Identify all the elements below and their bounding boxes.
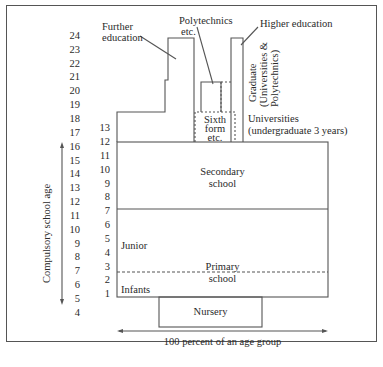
age-label: 8 <box>60 251 80 262</box>
age-label: 21 <box>60 71 80 82</box>
polytechnics-box <box>201 82 221 112</box>
grade-label: 5 <box>94 233 110 244</box>
infants-label: Infants <box>121 284 150 295</box>
secondary-label-2: school <box>117 178 328 189</box>
age-label: 10 <box>60 224 80 235</box>
width-axis-label: 100 percent of an age group <box>117 336 328 347</box>
grade-label: 7 <box>94 205 110 216</box>
grade-label: 3 <box>94 261 110 272</box>
primary-label-2: school <box>117 273 328 284</box>
grade-label: 4 <box>94 247 110 258</box>
grade-label: 10 <box>94 164 110 175</box>
primary-label-1: Primary <box>117 261 328 272</box>
secondary-label-1: Secondary <box>117 166 328 177</box>
junior-label: Junior <box>121 240 147 251</box>
age-label: 17 <box>60 127 80 138</box>
further-education-leader <box>140 36 176 59</box>
age-label: 11 <box>60 210 80 221</box>
polytechnics-label-1: Polytechnics <box>179 15 233 26</box>
age-label: 15 <box>60 155 80 166</box>
further-education-shape <box>117 38 194 142</box>
age-label: 20 <box>60 85 80 96</box>
graduate-label-2: (Universities & <box>258 42 269 107</box>
nursery-label: Nursery <box>159 306 262 317</box>
age-label: 19 <box>60 99 80 110</box>
grade-label: 11 <box>94 150 110 161</box>
age-label: 23 <box>60 44 80 55</box>
grade-label: 6 <box>94 219 110 230</box>
universities-label-1: Universities <box>248 113 299 124</box>
age-label: 22 <box>60 58 80 69</box>
compulsory-age-label: Compulsory school age <box>41 184 52 283</box>
polytechnics-label-2: etc. <box>181 26 196 37</box>
age-label: 5 <box>60 293 80 304</box>
age-label: 16 <box>60 141 80 152</box>
age-label: 4 <box>60 307 80 318</box>
universities-label-2: (undergraduate 3 years) <box>248 125 348 136</box>
graduate-label-1: Graduate <box>247 64 258 102</box>
grade-label: 12 <box>94 136 110 147</box>
polytechnics-leader <box>197 27 213 84</box>
age-label: 13 <box>60 182 80 193</box>
age-label: 18 <box>60 113 80 124</box>
age-label: 12 <box>60 196 80 207</box>
further-education-label-2: education <box>102 32 143 43</box>
age-label: 14 <box>60 168 80 179</box>
age-label: 24 <box>60 30 80 41</box>
higher-education-leader <box>241 27 258 45</box>
grade-label: 13 <box>94 122 110 133</box>
age-label: 9 <box>60 238 80 249</box>
higher-education-label: Higher education <box>260 18 333 29</box>
age-label: 7 <box>60 265 80 276</box>
grade-label: 9 <box>94 178 110 189</box>
graduate-label-3: Polytechnics) <box>269 50 280 107</box>
grade-label: 2 <box>94 274 110 285</box>
further-education-label-1: Further <box>102 21 133 32</box>
grade-label: 1 <box>94 288 110 299</box>
sixth-form-label-3: etc. <box>195 132 235 143</box>
age-label: 6 <box>60 279 80 290</box>
grade-label: 8 <box>94 191 110 202</box>
